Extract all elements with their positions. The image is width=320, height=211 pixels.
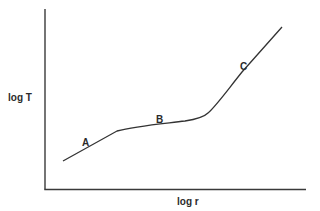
region-label-b: B <box>156 114 163 125</box>
region-label-c: C <box>240 61 247 72</box>
chart-canvas: log T log r A B C <box>0 0 320 211</box>
curve-line <box>63 27 282 161</box>
x-axis-label: log r <box>177 196 199 207</box>
y-axis-label: log T <box>8 92 32 103</box>
region-label-a: A <box>82 137 89 148</box>
